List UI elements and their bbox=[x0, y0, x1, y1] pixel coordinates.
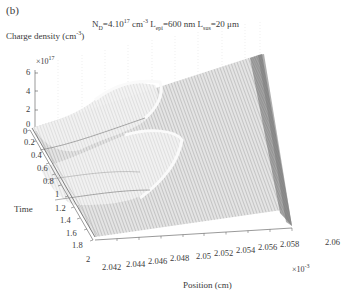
y-tick: 1.6 bbox=[66, 228, 77, 238]
z-tick: 2 bbox=[26, 104, 30, 114]
x-tick: 2.058 bbox=[280, 239, 299, 249]
x-axis-multiplier: ×10-3 bbox=[292, 263, 310, 274]
y-tick: 1 bbox=[55, 189, 59, 199]
y-tick: 0.2 bbox=[24, 137, 35, 147]
y-tick: 2 bbox=[86, 254, 90, 264]
x-axis-label: Position (cm) bbox=[183, 280, 232, 290]
x-tick: 2.048 bbox=[170, 253, 189, 263]
z-axis bbox=[35, 70, 38, 128]
x-tick: 2.056 bbox=[258, 242, 277, 252]
x-tick: 2.06 bbox=[325, 237, 340, 247]
x-tick: 2.042 bbox=[102, 262, 121, 272]
y-axis-label: Time bbox=[14, 204, 33, 214]
x-tick: 2.05 bbox=[196, 251, 211, 261]
z-tick: 4 bbox=[26, 86, 30, 96]
x-tick: 2.054 bbox=[236, 245, 255, 255]
x-tick: 2.046 bbox=[148, 256, 167, 266]
z-tick: 6 bbox=[26, 67, 30, 77]
y-tick: 0 bbox=[23, 126, 27, 136]
y-tick: 0.6 bbox=[37, 163, 48, 173]
y-tick: 1.2 bbox=[55, 203, 66, 213]
y-tick: 1.4 bbox=[60, 215, 71, 225]
x-tick: 2.044 bbox=[126, 259, 145, 269]
y-tick: 0.4 bbox=[31, 150, 42, 160]
y-tick: 1.8 bbox=[72, 240, 83, 250]
x-tick: 2.052 bbox=[214, 248, 233, 258]
y-tick: 0.8 bbox=[43, 176, 54, 186]
